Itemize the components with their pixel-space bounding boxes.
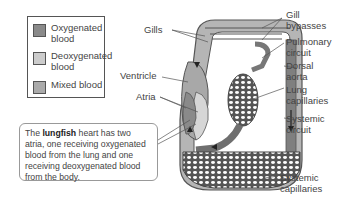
swatch-mixed (33, 81, 46, 94)
legend-label: blood (51, 61, 112, 72)
legend-label: Oxygenated (51, 22, 102, 33)
legend-item-mixed: Mixed blood (33, 79, 102, 94)
legend: Oxygenated blood Deoxygenated blood Mixe… (27, 16, 105, 98)
label-pulmonary-circuit: Pulmonary circuit (286, 36, 331, 58)
label-systemic-capillaries: Systemic capillaries (280, 172, 322, 194)
callout-box: The lungfish heart has two atria, one re… (19, 123, 158, 181)
label-ventricle: Ventricle (120, 70, 156, 81)
swatch-oxygenated (33, 24, 46, 37)
legend-label: Mixed blood (51, 79, 102, 90)
legend-item-oxygenated: Oxygenated blood (33, 22, 102, 44)
label-atria: Atria (136, 91, 156, 102)
label-systemic-circuit: Systemic circuit (286, 113, 325, 135)
lung-capillaries (228, 74, 258, 126)
legend-label: blood (51, 33, 102, 44)
label-dorsal-aorta: Dorsal aorta (286, 60, 313, 82)
label-gills: Gills (144, 24, 162, 35)
legend-label: Deoxygenated (51, 50, 112, 61)
callout-bold-term: lungfish (42, 128, 76, 138)
label-gill-bypasses: Gill bypasses (286, 9, 326, 31)
swatch-deoxygenated (33, 52, 46, 65)
label-lung-capillaries: Lung capillaries (286, 84, 328, 106)
legend-item-deoxygenated: Deoxygenated blood (33, 50, 112, 72)
